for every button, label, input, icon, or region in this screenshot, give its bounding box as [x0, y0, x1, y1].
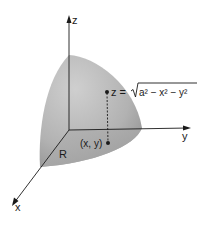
hemisphere-octant-diagram: z y x R (x, y) z = a² − x² − y²: [0, 0, 212, 228]
x-axis-label: x: [15, 201, 21, 213]
y-axis-label: y: [182, 130, 188, 142]
region-label: R: [59, 148, 67, 160]
surface-point: [105, 90, 109, 94]
base-point: [106, 141, 110, 145]
equation-lhs: z =: [111, 86, 126, 98]
equation-radicand: a² − x² − y²: [139, 87, 188, 98]
z-arrow-icon: [67, 15, 72, 23]
point-label: (x, y): [80, 138, 102, 149]
z-axis-label: z: [72, 14, 78, 26]
